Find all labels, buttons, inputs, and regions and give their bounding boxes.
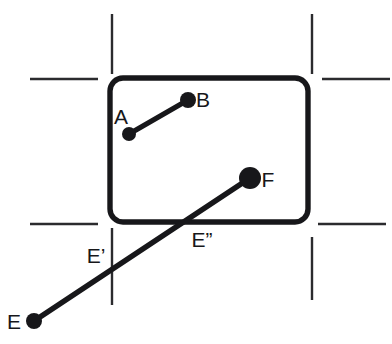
label-point-a: A [114,105,128,128]
point-e-dot [26,313,42,329]
figure-container: A B F E E’ E” [0,0,392,344]
label-point-f: F [262,168,275,191]
segment-ab-group [122,92,196,141]
point-a-dot [122,127,136,141]
label-point-e: E [7,310,21,333]
segment-ef-group [26,167,261,329]
point-b-dot [180,92,196,108]
segment-ef [34,178,250,321]
label-point-e-double-prime: E” [192,228,213,251]
segment-ab [129,100,188,134]
label-point-b: B [196,88,210,111]
point-f-dot [239,167,261,189]
crop-marks-group [30,14,390,305]
label-point-e-prime: E’ [87,244,106,267]
diagram-canvas: A B F E E’ E” [0,0,392,344]
